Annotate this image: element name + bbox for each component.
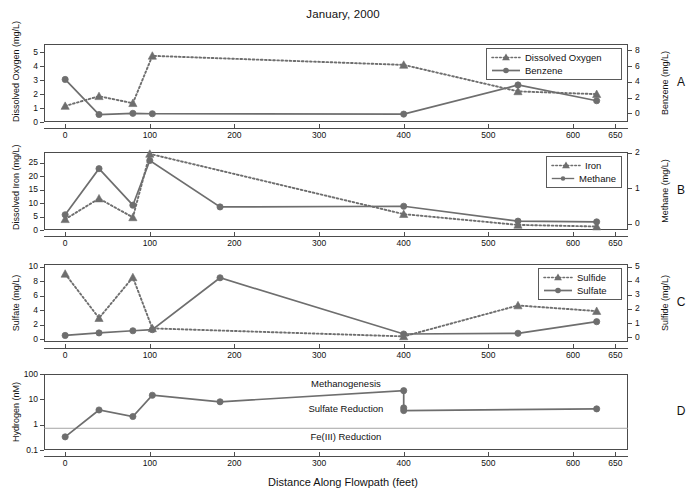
zone-label: Fe(III) Reduction bbox=[266, 431, 426, 442]
figure-root: January, 2000 01234502468010020030040050… bbox=[0, 0, 686, 497]
data-point-circle bbox=[217, 399, 223, 405]
data-point-circle bbox=[149, 392, 155, 398]
data-point-circle bbox=[594, 406, 600, 412]
zone-label: Methanogenesis bbox=[266, 378, 426, 389]
x-axis-title: Distance Along Flowpath (feet) bbox=[0, 476, 686, 488]
zone-label: Sulfate Reduction bbox=[266, 403, 426, 414]
data-point-circle bbox=[96, 407, 102, 413]
data-point-circle bbox=[62, 434, 68, 440]
plot-data-layer-d bbox=[0, 0, 686, 497]
data-point-circle bbox=[130, 413, 136, 419]
